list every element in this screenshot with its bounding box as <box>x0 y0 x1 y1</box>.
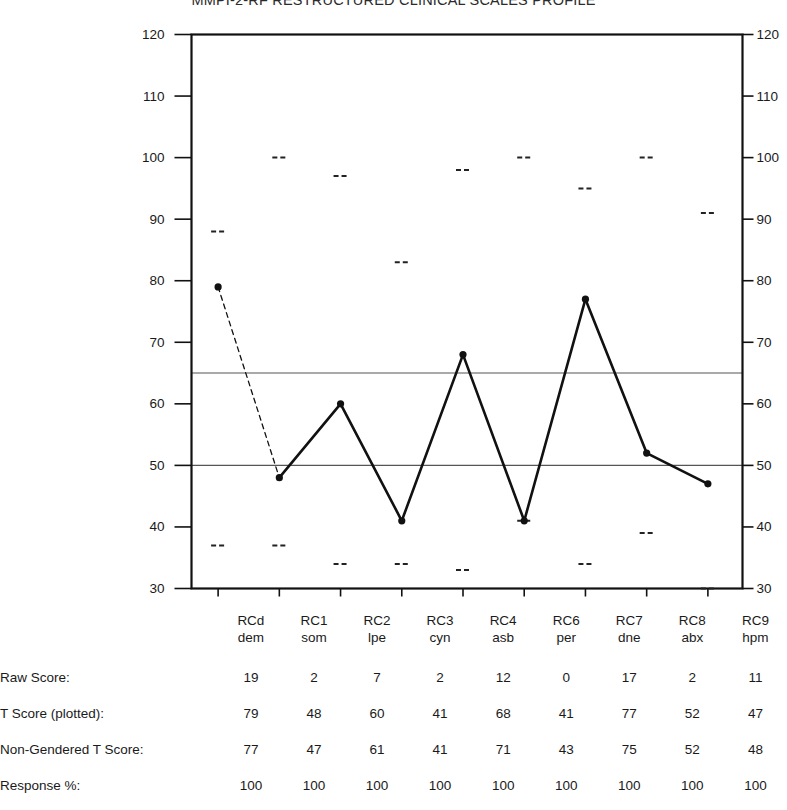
scale-abbr: cyn <box>409 629 472 646</box>
y-axis-left-tick-labels: 30405060708090100110120 <box>142 27 165 596</box>
cell-RC1-r2: 47 <box>282 732 345 768</box>
data-point-RC1[interactable]: RC1: 48 <box>276 474 283 481</box>
cell-RCd-r0: 19 <box>219 660 282 696</box>
profile-segment-RC7-to-RC8 <box>585 299 646 453</box>
mmpi-profile-page: MMPI-2-RF RESTRUCTURED CLINICAL SCALES P… <box>0 0 787 810</box>
cell-RC1-r0: 2 <box>282 660 345 696</box>
scale-header-RC1: RC1som <box>282 612 345 660</box>
cell-RC8-r0: 2 <box>661 660 724 696</box>
scale-header-RC7: RC7dne <box>598 612 661 660</box>
y-tick-label-left-80: 80 <box>149 273 164 288</box>
y-tick-label-right-110: 110 <box>757 89 779 104</box>
table-row: T Score (plotted):794860416841775247 <box>0 696 787 732</box>
data-point-RC3[interactable]: RC3: 41 <box>398 517 405 524</box>
cell-RC3-r3: 100 <box>409 768 472 804</box>
y-tick-label-left-70: 70 <box>149 335 164 350</box>
y-tick-label-right-60: 60 <box>757 396 772 411</box>
cell-RC9-r3: 100 <box>724 768 787 804</box>
cell-RC2-r2: 61 <box>345 732 408 768</box>
cell-RC4-r3: 100 <box>472 768 535 804</box>
scale-header-RC2: RC2lpe <box>345 612 408 660</box>
data-point-RC8[interactable]: RC8: 52 <box>643 449 650 456</box>
profile-segment-RC2-to-RC3 <box>341 404 402 521</box>
scale-header-RC9: RC9hpm <box>724 612 787 660</box>
cell-RC3-r2: 41 <box>409 732 472 768</box>
scale-header-RC4: RC4asb <box>472 612 535 660</box>
y-tick-label-right-50: 50 <box>757 458 772 473</box>
cell-RC9-r1: 47 <box>724 696 787 732</box>
upper-comparison-markers <box>211 158 715 263</box>
y-tick-label-left-100: 100 <box>142 150 165 165</box>
y-axis-right-ticks <box>743 35 754 589</box>
profile-segment-RC4-to-RC6 <box>463 355 524 521</box>
profile-segment-RC8-to-RC9 <box>647 453 708 484</box>
scale-code: RC4 <box>472 612 535 629</box>
data-point-RC4[interactable]: RC4: 68 <box>459 351 466 358</box>
data-point-RC9[interactable]: RC9: 47 <box>704 480 711 487</box>
profile-segment-RCd-to-RC1 <box>218 287 279 478</box>
scale-code: RC2 <box>345 612 408 629</box>
y-tick-label-right-40: 40 <box>757 519 772 534</box>
cell-RC3-r0: 2 <box>409 660 472 696</box>
scale-header-row: RCddemRC1somRC2lpeRC3cynRC4asbRC6perRC7d… <box>0 612 787 660</box>
plot-frame <box>192 35 743 589</box>
cell-RC4-r2: 71 <box>472 732 535 768</box>
scale-abbr: asb <box>472 629 535 646</box>
cell-RC4-r0: 12 <box>472 660 535 696</box>
cell-RCd-r3: 100 <box>219 768 282 804</box>
y-tick-label-left-40: 40 <box>149 519 164 534</box>
header-spacer <box>0 612 219 660</box>
cell-RC7-r1: 77 <box>598 696 661 732</box>
data-point-RC7[interactable]: RC7: 77 <box>582 296 589 303</box>
y-tick-label-left-60: 60 <box>149 396 164 411</box>
cell-RC2-r1: 60 <box>345 696 408 732</box>
y-tick-label-left-90: 90 <box>149 212 164 227</box>
scale-abbr: hpm <box>724 629 787 646</box>
t-score-profile-line <box>218 287 708 521</box>
data-point-RC6[interactable]: RC6: 41 <box>521 517 528 524</box>
cell-RC7-r2: 75 <box>598 732 661 768</box>
row-label-0: Raw Score: <box>0 660 219 696</box>
scale-code: RCd <box>219 612 282 629</box>
table-row: Response %:100100100100100100100100100 <box>0 768 787 804</box>
cell-RC7-r3: 100 <box>598 768 661 804</box>
profile-segment-RC1-to-RC2 <box>279 404 340 478</box>
cell-RC2-r3: 100 <box>345 768 408 804</box>
scale-code: RC3 <box>409 612 472 629</box>
cell-RC4-r1: 68 <box>472 696 535 732</box>
cell-RC2-r0: 7 <box>345 660 408 696</box>
cell-RC1-r3: 100 <box>282 768 345 804</box>
y-tick-label-left-120: 120 <box>142 27 165 42</box>
scale-abbr: dne <box>598 629 661 646</box>
x-axis-ticks <box>218 589 708 597</box>
cell-RCd-r1: 79 <box>219 696 282 732</box>
score-table-wrap: RCddemRC1somRC2lpeRC3cynRC4asbRC6perRC7d… <box>0 612 787 804</box>
scale-header-RC8: RC8abx <box>661 612 724 660</box>
lower-comparison-markers <box>211 521 715 589</box>
table-row: Non-Gendered T Score:774761417143755248 <box>0 732 787 768</box>
t-score-data-points: RCd: 79RC1: 48RC2: 60RC3: 41RC4: 68RC6: … <box>215 283 712 524</box>
row-label-3: Response %: <box>0 768 219 804</box>
profile-segment-RC3-to-RC4 <box>402 355 463 521</box>
cell-RC9-r0: 11 <box>724 660 787 696</box>
y-tick-label-right-100: 100 <box>757 150 780 165</box>
data-point-RCd[interactable]: RCd: 79 <box>215 283 222 290</box>
y-tick-label-left-50: 50 <box>149 458 164 473</box>
data-point-RC2[interactable]: RC2: 60 <box>337 400 344 407</box>
cell-RC6-r2: 43 <box>535 732 598 768</box>
scale-code: RC1 <box>282 612 345 629</box>
score-table: RCddemRC1somRC2lpeRC3cynRC4asbRC6perRC7d… <box>0 612 787 804</box>
scale-abbr: per <box>535 629 598 646</box>
cell-RC7-r0: 17 <box>598 660 661 696</box>
scale-header-RC6: RC6per <box>535 612 598 660</box>
cell-RC8-r1: 52 <box>661 696 724 732</box>
cell-RC6-r1: 41 <box>535 696 598 732</box>
cell-RCd-r2: 77 <box>219 732 282 768</box>
y-tick-label-right-120: 120 <box>757 27 780 42</box>
scale-abbr: som <box>282 629 345 646</box>
reference-gridlines <box>192 373 743 465</box>
scale-header-RC3: RC3cyn <box>409 612 472 660</box>
cell-RC8-r2: 52 <box>661 732 724 768</box>
cell-RC9-r2: 48 <box>724 732 787 768</box>
cell-RC8-r3: 100 <box>661 768 724 804</box>
